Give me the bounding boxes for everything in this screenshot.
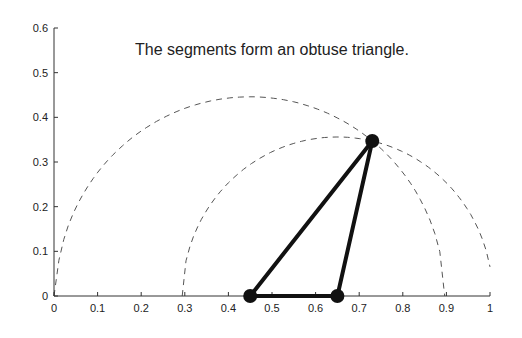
x-tick-label: 1 <box>487 302 493 314</box>
dashed-arc <box>182 137 490 296</box>
x-tick-label: 0.1 <box>90 302 105 314</box>
x-tick-label: 0 <box>51 302 57 314</box>
y-tick-label: 0.5 <box>33 67 48 79</box>
y-tick-label: 0.4 <box>33 111 48 123</box>
x-tick-label: 0.8 <box>395 302 410 314</box>
y-tick-label: 0.3 <box>33 156 48 168</box>
data-point <box>365 134 379 148</box>
x-tick-label: 0.5 <box>264 302 279 314</box>
data-point <box>243 289 257 303</box>
x-tick-label: 0.3 <box>177 302 192 314</box>
x-tick-label: 0.2 <box>134 302 149 314</box>
annotation-text: The segments form an obtuse triangle. <box>135 41 409 58</box>
data-point <box>330 289 344 303</box>
axes: 00.10.20.30.40.50.60.70.80.9100.10.20.30… <box>33 22 493 314</box>
x-tick-label: 0.9 <box>439 302 454 314</box>
y-tick-label: 0 <box>42 290 48 302</box>
triangle-segments <box>250 141 372 296</box>
x-tick-label: 0.6 <box>308 302 323 314</box>
y-tick-label: 0.2 <box>33 201 48 213</box>
y-tick-label: 0.1 <box>33 245 48 257</box>
chart: 00.10.20.30.40.50.60.70.80.9100.10.20.30… <box>0 0 522 338</box>
x-tick-label: 0.7 <box>352 302 367 314</box>
x-tick-label: 0.4 <box>221 302 236 314</box>
y-tick-label: 0.6 <box>33 22 48 34</box>
dashed-arc <box>54 97 445 296</box>
